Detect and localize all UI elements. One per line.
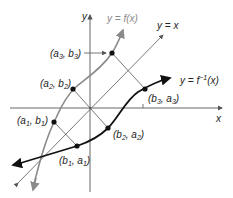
f-inverse-label: y = f−1(x)	[179, 74, 219, 86]
point-a1b1	[51, 119, 56, 124]
point-b3a3	[142, 86, 147, 91]
x-axis-label: x	[215, 113, 222, 124]
f-inverse-curve-tail	[13, 163, 22, 165]
identity-line-label: y = x	[156, 20, 179, 31]
label-b3a3: (b3, a3)	[148, 93, 179, 105]
point-a3b3	[109, 50, 114, 55]
label-a3b3: (a3, b3)	[50, 48, 81, 60]
inverse-function-diagram: y x y = f(x) y = x y = f−1(x) (a3, b3) (…	[0, 0, 233, 198]
origin-point	[89, 107, 91, 109]
label-b1a1: (b1, a1)	[59, 155, 90, 167]
y-axis-label: y	[81, 11, 88, 22]
label-a2b2: (a2, b2)	[40, 78, 71, 90]
point-b2a2	[105, 125, 110, 130]
f-curve-label: y = f(x)	[106, 13, 138, 24]
label-b2a2: (b2, a2)	[113, 129, 144, 141]
label-a1b1: (a1, b1)	[17, 115, 48, 127]
point-b1a1	[74, 143, 79, 148]
